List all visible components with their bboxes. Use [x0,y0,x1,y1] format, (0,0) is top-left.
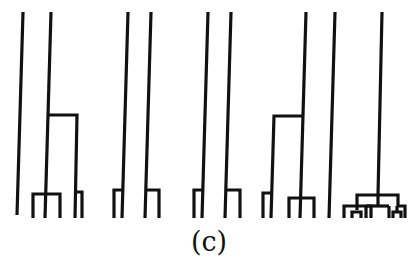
figure-caption: (c) [0,226,418,257]
tree-4 [263,12,335,218]
tree-1 [17,12,82,218]
tree-2 [114,12,159,218]
tree-3 [194,12,240,218]
tree-diagram [0,0,418,230]
tree-5 [329,12,405,218]
